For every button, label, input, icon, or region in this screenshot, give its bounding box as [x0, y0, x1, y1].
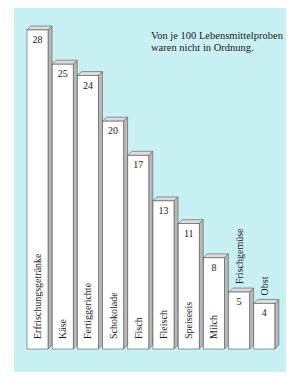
- bar-2: 25Käse: [52, 60, 77, 349]
- bar-side: [224, 254, 228, 349]
- bar-top: [229, 288, 254, 292]
- category-label: Käse: [57, 318, 68, 339]
- bar-top: [52, 60, 77, 64]
- bar-top: [128, 151, 153, 155]
- value-label: 4: [262, 307, 267, 318]
- value-label: 28: [33, 34, 43, 45]
- bar-side: [48, 26, 52, 349]
- bar-top: [77, 72, 102, 76]
- value-label: 25: [58, 68, 68, 79]
- bar-7: 11Speiseeis: [178, 220, 203, 349]
- value-label: 24: [83, 80, 93, 91]
- category-label: Frischgemüse: [234, 228, 245, 284]
- category-label: Fleisch: [158, 310, 169, 339]
- value-label: 8: [211, 262, 216, 273]
- value-label: 17: [133, 159, 143, 170]
- bar-4: 20Schokolade: [103, 117, 128, 349]
- category-label: Fisch: [133, 317, 144, 339]
- category-label: Milch: [208, 315, 219, 339]
- bar-top: [254, 299, 279, 303]
- bar-5: 17Fisch: [128, 151, 153, 349]
- bar-chart: 28Erfrischungsgetränke25Käse24Fertiggeri…: [0, 0, 293, 381]
- value-label: 20: [108, 125, 118, 136]
- category-label: Fertiggerichte: [82, 282, 93, 339]
- bar-side: [98, 72, 102, 349]
- bar-side: [174, 197, 178, 349]
- category-label: Speiseeis: [183, 302, 194, 339]
- bar-8: 8Milch: [203, 254, 228, 349]
- bar-top: [27, 26, 52, 30]
- value-label: 11: [184, 228, 194, 239]
- bar-top: [153, 197, 178, 201]
- bar-side: [250, 288, 254, 349]
- bar-side: [275, 299, 279, 349]
- bar-3: 24Fertiggerichte: [77, 72, 102, 349]
- bar-1: 28Erfrischungsgetränke: [27, 26, 52, 349]
- bar-10: 4Obst: [254, 276, 279, 349]
- value-label: 13: [159, 205, 169, 216]
- bar-side: [199, 220, 203, 349]
- bar-side: [124, 117, 128, 349]
- bar-6: 13Fleisch: [153, 197, 178, 349]
- bar-9: 5Frischgemüse: [229, 228, 254, 349]
- bar-front: [52, 64, 73, 349]
- value-label: 5: [237, 296, 242, 307]
- category-label: Schokolade: [108, 292, 119, 339]
- bar-top: [178, 220, 203, 224]
- bar-top: [203, 254, 228, 258]
- bar-top: [103, 117, 128, 121]
- category-label: Obst: [259, 276, 270, 295]
- bar-side: [149, 151, 153, 349]
- category-label: Erfrischungsgetränke: [32, 253, 43, 339]
- bar-side: [73, 60, 77, 349]
